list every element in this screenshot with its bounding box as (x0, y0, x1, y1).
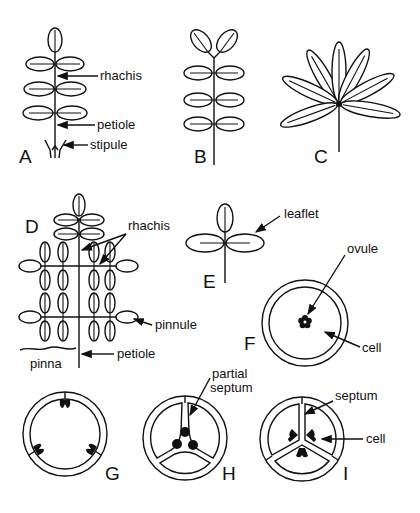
panel-g-parietal-placentation: G (23, 392, 120, 484)
label-septum-h: septum (210, 380, 253, 395)
panel-b-paripinnate-leaf: B (184, 26, 244, 167)
panel-letter-b: B (194, 146, 207, 167)
label-partial-h: partial (212, 366, 248, 381)
panel-e-trifoliate-leaf: leaflet E (186, 204, 319, 292)
panel-c-palmate-leaf: C (278, 42, 401, 167)
label-pinna-d: pinna (30, 356, 63, 371)
label-leaflet-e: leaflet (284, 206, 319, 221)
label-ovule-f: ovule (347, 241, 378, 256)
panel-letter-h: H (222, 463, 236, 484)
panel-i-axile-placentation: septum cell I (260, 388, 386, 484)
label-cell-i: cell (366, 431, 386, 446)
label-rhachis-d: rhachis (128, 218, 170, 233)
label-stipule-a: stipule (90, 137, 128, 152)
ovule-icon (298, 315, 312, 328)
panel-h-partial-septa: partial septum H (143, 366, 253, 484)
panel-letter-i: I (343, 463, 348, 484)
panel-letter-f: F (244, 333, 256, 354)
label-pinnule-d: pinnule (155, 317, 197, 332)
panel-f-unilocular-ovary: ovule cell F (244, 241, 382, 366)
panel-letter-e: E (203, 271, 216, 292)
panel-letter-d: D (25, 216, 39, 237)
panel-letter-g: G (105, 463, 120, 484)
panel-letter-c: C (314, 146, 328, 167)
botanical-diagram: rhachis petiole stipule A B (0, 0, 420, 513)
panel-d-bipinnate-leaf: rhachis pinnule petiole pinna D (19, 194, 197, 371)
label-petiole-d: petiole (117, 346, 155, 361)
label-cell-f: cell (362, 340, 382, 355)
label-rhachis-a: rhachis (100, 68, 142, 83)
label-septum-i: septum (335, 388, 378, 403)
panel-letter-a: A (19, 146, 32, 167)
panel-a-imparipinnate-leaf: rhachis petiole stipule A (19, 28, 142, 167)
label-petiole-a: petiole (97, 117, 135, 132)
